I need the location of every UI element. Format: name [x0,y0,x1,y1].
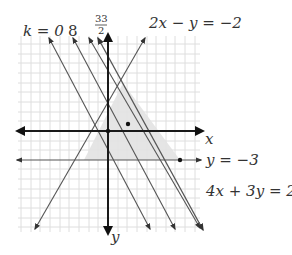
label-4x-plus-3y: 4x + 3y = 21 [205,182,292,200]
y-axis-label: y [110,228,120,246]
label-k-frac-numerator: 33 [95,13,108,24]
label-k-0: k = 0 [23,22,64,40]
point-vertex-7.5-minus-3 [178,158,182,162]
point-origin [106,129,110,133]
label-k-frac-denominator: 2 [98,25,104,36]
label-k-8: 8 [68,22,78,40]
label-y-minus-3: y = −3 [205,151,259,169]
label-2x-minus-y: 2x − y = −2 [148,14,242,32]
linear-programming-diagram: k = 0 8 33 2 2x − y = −2 x y = −3 4x + 3… [0,0,292,255]
x-axis-label: x [205,130,214,148]
point-2-1 [126,122,130,126]
